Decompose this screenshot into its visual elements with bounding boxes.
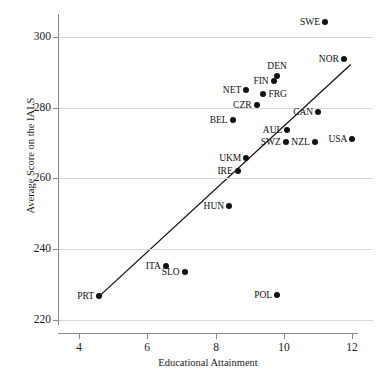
x-tick-label: 6 xyxy=(132,341,162,353)
x-axis-line xyxy=(58,333,358,334)
data-point-label: NZL xyxy=(291,137,309,147)
data-point-marker xyxy=(260,91,266,97)
y-tick-label: 220 xyxy=(11,314,51,326)
y-tick-mark xyxy=(53,320,59,321)
data-point-marker xyxy=(96,293,102,299)
x-axis-title: Educational Attainment xyxy=(58,357,358,368)
x-tick-mark xyxy=(284,333,285,339)
data-point-marker xyxy=(235,168,241,174)
data-point-marker xyxy=(226,203,232,209)
gridline-horizontal xyxy=(58,178,373,179)
data-point-label: FIN xyxy=(253,76,268,86)
data-point-label: ITA xyxy=(146,261,161,271)
data-point-label: FRG xyxy=(268,89,286,99)
data-point-marker xyxy=(283,139,289,145)
data-point-marker xyxy=(341,56,347,62)
data-point-label: SWE xyxy=(300,17,320,27)
x-tick-mark xyxy=(147,333,148,339)
data-point-label: USA xyxy=(328,134,347,144)
data-point-marker xyxy=(322,19,328,25)
data-point-label: IRE xyxy=(217,166,232,176)
y-tick-mark xyxy=(53,178,59,179)
gridline-horizontal xyxy=(58,108,373,109)
chart-title xyxy=(150,0,379,6)
data-point-marker xyxy=(271,78,277,84)
gridline-horizontal xyxy=(58,37,373,38)
data-point-marker xyxy=(274,292,280,298)
x-tick-mark xyxy=(216,333,217,339)
linear-regression-line xyxy=(99,65,351,297)
x-tick-label: 4 xyxy=(64,341,94,353)
y-axis-line xyxy=(58,14,59,325)
data-point-label: SWZ xyxy=(261,137,281,147)
data-point-marker xyxy=(284,127,290,133)
data-point-label: BEL xyxy=(210,115,228,125)
data-point-marker xyxy=(243,87,249,93)
data-point-label: NOR xyxy=(319,54,339,64)
x-tick-mark xyxy=(79,333,80,339)
data-point-label: SLO xyxy=(162,267,180,277)
y-tick-label: 300 xyxy=(11,31,51,43)
x-tick-label: 10 xyxy=(269,341,299,353)
data-point-label: NET xyxy=(223,85,241,95)
data-point-marker xyxy=(349,136,355,142)
data-point-marker xyxy=(254,102,260,108)
y-tick-mark xyxy=(53,249,59,250)
data-point-label: HUN xyxy=(204,201,225,211)
data-point-label: DEN xyxy=(267,61,287,71)
scatter-plot-figure: 220240260280300 4681012 SWENORDENFINNETF… xyxy=(0,0,379,376)
y-tick-mark xyxy=(53,37,59,38)
data-point-marker xyxy=(243,155,249,161)
gridline-horizontal xyxy=(58,320,373,321)
y-tick-mark xyxy=(53,108,59,109)
gridline-horizontal xyxy=(58,249,373,250)
x-tick-label: 8 xyxy=(201,341,231,353)
x-tick-mark xyxy=(352,333,353,339)
data-point-label: PRT xyxy=(77,291,94,301)
data-point-marker xyxy=(312,139,318,145)
data-point-marker xyxy=(315,109,321,115)
data-point-marker xyxy=(230,117,236,123)
y-axis-title: Average Score on the IALS xyxy=(25,46,36,266)
data-point-label: CZR xyxy=(233,100,251,110)
data-point-label: UKM xyxy=(219,153,241,163)
x-tick-label: 12 xyxy=(337,341,367,353)
data-point-label: CAN xyxy=(293,107,313,117)
data-point-marker xyxy=(182,269,188,275)
data-point-label: AUL xyxy=(263,125,283,135)
data-point-label: POL xyxy=(254,290,272,300)
